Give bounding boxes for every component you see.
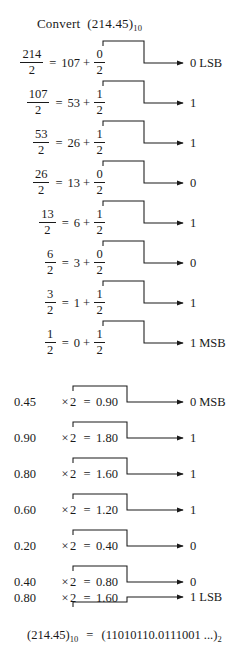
product: 1.80 [96,431,118,446]
bit-value: 1 [190,336,196,350]
multiplication-row: 0.60 × 2 = 1.20 [0,492,242,528]
remainder-denominator: 2 [94,264,104,277]
divisor: 2 [45,264,55,277]
bit-result: 1 [190,431,199,446]
divisor: 2 [42,224,52,237]
bit-result: 1MSB [190,336,226,351]
times-sign: × [60,467,70,482]
plus-sign: + [83,336,90,351]
bit-value: 0 [190,395,196,409]
equals-sign: = [62,216,69,231]
multiplier: 2 [70,395,78,410]
quotient: 6 [74,216,80,231]
bit-value: 1 [190,136,196,150]
bit-result: 0 [190,539,199,554]
page-title: Convert(214.45)10 [37,16,142,32]
dividend-fraction: 107 2 [27,88,50,117]
bit-value: 1 [190,296,196,310]
equals-sign: = [78,395,96,410]
remainder-numerator: 1 [94,208,104,221]
remainder-denominator: 2 [94,64,104,77]
remainder-denominator: 2 [94,224,104,237]
equals-sign: = [55,176,62,191]
divisor: 2 [45,304,55,317]
bit-result: 1 [190,296,199,311]
equals-sign: = [78,431,96,446]
equals-sign: = [62,256,69,271]
remainder-numerator: 0 [94,248,104,261]
quotient: 53 [67,96,80,111]
division-equation: 53 2 = 26 + 1 2 [32,123,106,163]
quotient: 26 [67,136,80,151]
remainder-fraction: 1 2 [94,288,105,317]
equals-sign: = [49,56,56,71]
multiplier: 2 [70,591,78,606]
times-sign: × [60,395,70,410]
bit-result: 1 [190,96,199,111]
quotient: 1 [74,296,80,311]
product: 1.20 [96,503,118,518]
remainder-fraction: 0 2 [94,248,105,277]
remainder-numerator: 0 [94,48,104,61]
page-title-subscript: 10 [133,23,142,33]
bit-value: 0 [190,256,196,270]
remainder-numerator: 1 [94,88,104,101]
division-equation: 107 2 = 53 + 1 2 [26,83,106,123]
equals-sign: = [78,539,96,554]
page-title-value: (214.45) [87,16,133,31]
bit-result: 1 [190,467,199,482]
bit-tag: LSB [199,590,222,604]
division-row: 3 2 = 1 + 1 2 [0,283,242,323]
division-row: 13 2 = 6 + 1 2 [0,203,242,243]
bit-value: 0 [190,176,196,190]
dividend-fraction: 1 2 [45,328,56,357]
bit-value: 1 [190,431,196,445]
remainder-fraction: 1 2 [94,128,105,157]
remainder-denominator: 2 [94,344,104,357]
multiplication-equation: 0.80 × 2 = 1.60 [14,580,118,616]
multiplier: 2 [70,431,78,446]
remainder-denominator: 2 [94,104,104,117]
remainder-fraction: 1 2 [94,208,105,237]
divisor: 2 [27,64,37,77]
answer-decimal: (214.45) [27,628,70,642]
final-answer: (214.45)10 = (11010110.0111001 ...)2 [27,628,222,643]
remainder-denominator: 2 [94,184,104,197]
equals-sign: = [62,296,69,311]
answer-binary-base: 2 [217,634,221,644]
remainder-fraction: 1 2 [94,88,105,117]
bit-result: 0 [190,256,199,271]
plus-sign: + [83,216,90,231]
multiplier: 2 [70,539,78,554]
times-sign: × [60,503,70,518]
dividend: 1 [45,328,55,341]
dividend-fraction: 13 2 [39,208,56,237]
equals-sign: = [78,467,96,482]
multiplicand: 0.90 [14,431,60,446]
times-sign: × [60,539,70,554]
dividend: 107 [27,88,50,101]
product: 1.60 [96,591,118,606]
divisor: 2 [45,344,55,357]
quotient: 3 [74,256,80,271]
division-equation: 3 2 = 1 + 1 2 [44,283,106,323]
multiplication-equation: 0.90 × 2 = 1.80 [14,420,118,456]
remainder-numerator: 1 [94,328,104,341]
bit-value: 1 [190,96,196,110]
dividend: 3 [45,288,55,301]
multiplication-equation: 0.45 × 2 = 0.90 [14,384,118,420]
multiplicand: 0.45 [14,395,60,410]
dividend-fraction: 214 2 [20,48,43,77]
division-row: 53 2 = 26 + 1 2 [0,123,242,163]
divisor: 2 [33,104,43,117]
division-equation: 1 2 = 0 + 1 2 [44,323,106,363]
bit-tag: MSB [199,336,225,350]
multiplication-equation: 0.80 × 2 = 1.60 [14,456,118,492]
division-equation: 13 2 = 6 + 1 2 [38,203,106,243]
division-row: 6 2 = 3 + 0 2 [0,243,242,283]
remainder-denominator: 2 [94,144,104,157]
bit-tag: LSB [199,56,222,70]
plus-sign: + [83,176,90,191]
bit-value: 0 [190,539,196,553]
dividend-fraction: 3 2 [45,288,56,317]
